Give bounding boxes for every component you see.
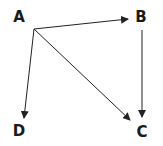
edge-a-to-c (34, 29, 130, 120)
node-d-label: D (13, 122, 25, 140)
node-a-label: A (13, 8, 25, 26)
node-b-label: B (135, 8, 146, 26)
edge-a-to-b (34, 19, 128, 29)
node-c-label: C (136, 123, 147, 141)
edge-a-to-d (24, 29, 34, 118)
graph-diagram: A B D C (0, 0, 163, 146)
